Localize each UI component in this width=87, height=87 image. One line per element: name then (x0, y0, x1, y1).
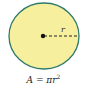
center-point (41, 34, 45, 38)
formula-exponent: 2 (57, 73, 61, 80)
area-formula: A = πr2 (0, 73, 87, 85)
formula-text: A = πr (27, 75, 57, 85)
